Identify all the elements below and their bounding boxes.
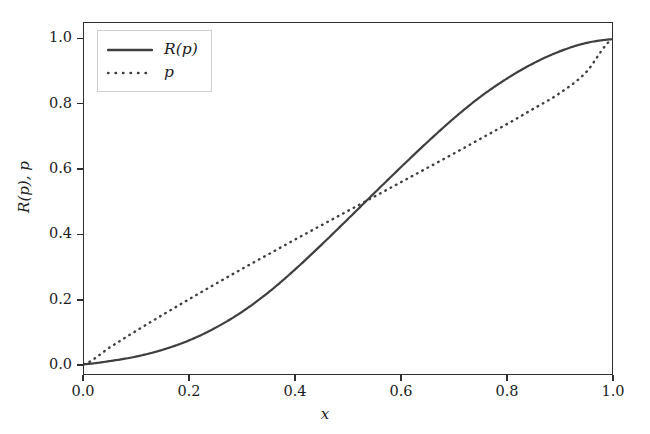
y-tick-5	[77, 38, 83, 39]
legend-entry-p: p	[107, 61, 198, 84]
legend-swatch-dotted	[107, 66, 153, 80]
x-tick-label-1: 0.2	[159, 383, 219, 399]
x-tick-1	[188, 375, 189, 381]
x-tick-2	[294, 375, 295, 381]
x-axis-label: x	[0, 405, 650, 423]
y-tick-1	[77, 299, 83, 300]
figure-canvas: 0.00.20.40.60.81.00.00.20.40.60.81.0 x R…	[0, 0, 650, 434]
y-axis-label: R(p), p	[15, 97, 33, 277]
y-tick-label-0: 0.0	[26, 356, 72, 372]
legend-label-p: p	[164, 65, 174, 81]
legend-entry-R-of-p: R(p)	[107, 38, 198, 61]
x-tick-5	[612, 375, 613, 381]
x-tick-label-0: 0.0	[53, 383, 113, 399]
x-tick-label-5: 1.0	[583, 383, 643, 399]
legend-swatch-solid	[107, 43, 153, 57]
x-tick-3	[400, 375, 401, 381]
y-tick-label-5: 1.0	[26, 29, 72, 45]
y-tick-3	[77, 168, 83, 169]
x-tick-label-4: 0.8	[477, 383, 537, 399]
x-tick-label-2: 0.4	[265, 383, 325, 399]
y-tick-label-1: 0.2	[26, 291, 72, 307]
y-tick-0	[77, 364, 83, 365]
x-tick-0	[82, 375, 83, 381]
x-tick-4	[506, 375, 507, 381]
legend-box: R(p) p	[97, 30, 212, 92]
y-tick-2	[77, 234, 83, 235]
x-tick-label-3: 0.6	[371, 383, 431, 399]
y-tick-4	[77, 103, 83, 104]
legend-label-R-of-p: R(p)	[164, 42, 198, 58]
